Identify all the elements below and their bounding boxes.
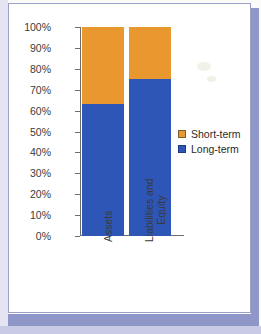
y-axis-tick (75, 27, 80, 28)
y-axis-tick-label: 30% (30, 168, 51, 178)
y-axis-tick-label: 0% (36, 231, 51, 241)
y-axis-tick (75, 236, 80, 237)
y-axis-tick-label: 70% (30, 85, 51, 95)
chart-frame: 0%10%20%30%40%50%60%70%80%90%100% Assets… (8, 3, 251, 313)
y-axis-tick (75, 132, 80, 133)
y-axis-tick (75, 90, 80, 91)
legend-item[interactable]: Long-term (178, 143, 241, 155)
stacked-bar[interactable] (82, 27, 124, 236)
x-axis-category-line: Equity (156, 178, 168, 242)
y-axis-tick-label: 80% (30, 64, 51, 74)
y-axis-tick-label: 40% (30, 147, 51, 157)
x-axis-category-line: Assets (103, 210, 115, 242)
y-axis-tick (75, 48, 80, 49)
legend-swatch-long-term (178, 145, 186, 153)
legend-item[interactable]: Short-term (178, 128, 241, 140)
y-axis-tick (75, 111, 80, 112)
y-axis-tick (75, 173, 80, 174)
y-axis-tick (75, 194, 80, 195)
legend-label: Short-term (191, 129, 241, 140)
y-axis-tick-label: 20% (30, 189, 51, 199)
scan-blemish (207, 76, 216, 82)
figure-page: 0%10%20%30%40%50%60%70%80%90%100% Assets… (0, 0, 261, 334)
scan-blemish (197, 62, 211, 71)
y-axis-tick (75, 69, 80, 70)
y-axis-tick-label: 100% (24, 22, 51, 32)
x-axis-category-label: Assets (103, 210, 115, 242)
x-axis-category-label: Liabilities andEquity (144, 178, 167, 242)
y-axis-tick (75, 152, 80, 153)
bar-segment-short-term[interactable] (129, 27, 171, 79)
x-axis-category-line: Liabilities and (144, 178, 156, 242)
y-axis-tick (75, 215, 80, 216)
y-axis-line (80, 27, 81, 236)
legend-label: Long-term (191, 144, 239, 155)
chart-legend: Short-termLong-term (178, 128, 241, 158)
page-right-shadow (251, 8, 259, 326)
page-left-edge (0, 0, 8, 334)
y-axis-tick-label: 60% (30, 106, 51, 116)
y-axis-tick-label: 50% (30, 127, 51, 137)
bar-segment-short-term[interactable] (82, 27, 124, 104)
legend-swatch-short-term (178, 130, 186, 138)
y-axis-tick-label: 10% (30, 210, 51, 220)
page-bottom-shadow (8, 314, 259, 326)
y-axis-tick-label: 90% (30, 43, 51, 53)
page-bottom-band (0, 326, 261, 334)
